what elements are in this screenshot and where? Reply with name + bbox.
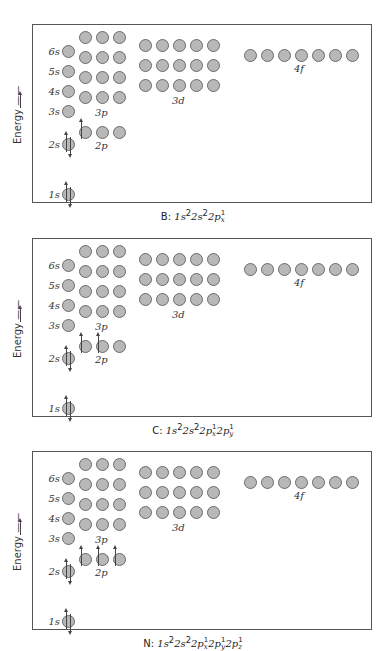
spin-down-arrow-icon (70, 564, 71, 582)
orbital-3d (190, 466, 203, 479)
label-5s: 5s (40, 493, 60, 504)
orbital-4f (278, 476, 291, 489)
orbital-np (113, 518, 126, 531)
orbital-np (113, 458, 126, 471)
orbital-3d (207, 506, 220, 519)
orbital-4f (261, 476, 274, 489)
label-3s: 3s (40, 533, 60, 544)
orbital-3d (139, 486, 152, 499)
orbital-np (79, 458, 92, 471)
orbital-4f (346, 476, 359, 489)
spin-up-arrow-icon (66, 611, 67, 629)
orbital-4s (62, 512, 75, 525)
orbital-np (96, 518, 109, 531)
orbital-3d (207, 466, 220, 479)
orbital-3d (207, 486, 220, 499)
orbital-6s (62, 472, 75, 485)
electron-configuration-caption: N: 1s22s22p1x2p1y2p1z (0, 635, 386, 651)
label-2s: 2s (40, 566, 60, 577)
orbital-np (113, 478, 126, 491)
orbital-3d (139, 466, 152, 479)
label-2p: 2p (95, 567, 108, 578)
label-6s: 6s (40, 473, 60, 484)
orbital-np (113, 498, 126, 511)
orbital-3d (173, 506, 186, 519)
orbital-3d (190, 486, 203, 499)
label-4s: 4s (40, 513, 60, 524)
label-1s: 1s (40, 616, 60, 627)
spin-up-arrow-icon (115, 548, 116, 566)
spin-up-arrow-icon (98, 548, 99, 566)
orbital-3s (62, 532, 75, 545)
label-3d: 3d (172, 522, 185, 533)
orbital-np (96, 498, 109, 511)
orbital-np (79, 498, 92, 511)
orbital-np (96, 458, 109, 471)
orbital-4f (295, 476, 308, 489)
orbital-np (96, 478, 109, 491)
orbital-4f (329, 476, 342, 489)
orbital-np (79, 518, 92, 531)
orbital-3d (173, 466, 186, 479)
orbital-3d (139, 506, 152, 519)
orbital-4f (312, 476, 325, 489)
orbital-1s (62, 615, 75, 628)
spin-down-arrow-icon (70, 614, 71, 632)
orbital-np (79, 478, 92, 491)
orbital-2s (62, 565, 75, 578)
label-4f: 4f (294, 490, 304, 501)
orbital-3d (173, 486, 186, 499)
orbital-3d (190, 506, 203, 519)
energy-up-arrow-icon (20, 521, 21, 535)
label-3p: 3p (95, 534, 108, 545)
spin-up-arrow-icon (66, 561, 67, 579)
orbital-3d (156, 486, 169, 499)
orbital-3d (156, 466, 169, 479)
orbital-4f (244, 476, 257, 489)
orbital-3d (156, 506, 169, 519)
orbital-5s (62, 492, 75, 505)
spin-up-arrow-icon (81, 548, 82, 566)
